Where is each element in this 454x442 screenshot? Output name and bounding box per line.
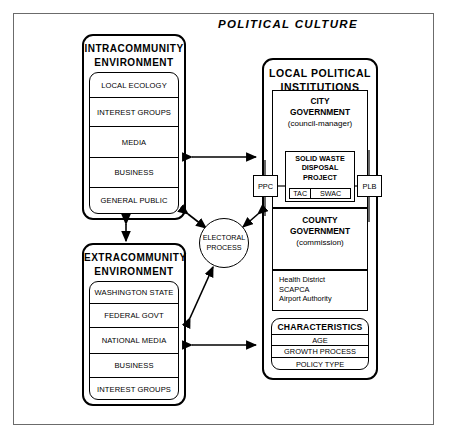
intracommunity-items: LOCAL ECOLOGY INTEREST GROUPS MEDIA BUSI… [89,72,179,214]
agency-item: SCAPCA [279,285,367,295]
characteristics-row: GROWTH PROCESS [272,346,368,358]
local-political-title-line1: LOCAL POLITICAL [264,60,376,80]
list-item: NATIONAL MEDIA [90,328,178,354]
solid-waste-line2: DISPOSAL [286,164,354,173]
plb-label: PLB [363,182,377,191]
characteristics-title: CHARACTERISTICS [272,319,368,335]
agency-item: Airport Authority [279,294,367,304]
county-government-box: COUNTY GOVERNMENT (commission) [272,208,368,270]
intracommunity-title-line1: INTRACOMMUNITY [84,36,184,55]
electoral-line2: PROCESS [206,243,241,253]
extracommunity-title-line2: ENVIRONMENT [84,264,184,278]
extracommunity-title-line1: EXTRACOMMUNITY [84,245,184,264]
extracommunity-items: WASHINGTON STATE FEDERAL GOVT NATIONAL M… [89,281,179,400]
plb-tag: PLB [357,175,382,197]
county-government-head-line1: COUNTY [273,209,367,226]
list-item: MEDIA [90,127,178,158]
tac-cell: TAC [290,189,311,198]
city-government-head-line1: CITY [273,91,367,107]
list-item: GENERAL PUBLIC [90,188,178,213]
county-agencies-box: Health District SCAPCA Airport Authority [272,270,368,311]
list-item: WASHINGTON STATE [90,282,178,304]
county-government-subtitle: (commission) [273,237,367,248]
list-item: INTEREST GROUPS [90,378,178,400]
city-government-head-line2: GOVERNMENT [273,107,367,118]
solid-waste-line1: SOLID WASTE [286,152,354,164]
ppc-tag: PPC [253,175,278,197]
list-item: BUSINESS [90,158,178,188]
characteristics-row: POLICY TYPE [272,358,368,370]
intracommunity-title-line2: ENVIRONMENT [84,55,184,69]
characteristics-row: AGE [272,335,368,346]
ppc-label: PPC [258,182,273,191]
electoral-process-circle: ELECTORAL PROCESS [199,218,249,268]
diagram-canvas: POLITICAL CULTURE INTRACOMMUNITY ENVIRON… [0,0,454,442]
county-government-head-line2: GOVERNMENT [273,226,367,237]
city-government-subtitle: (council-manager) [273,118,367,129]
political-culture-title: POLITICAL CULTURE [218,18,358,30]
electoral-line1: ELECTORAL [203,233,246,243]
solid-waste-line3: PROJECT [286,172,354,183]
agency-item: Health District [279,275,367,285]
list-item: BUSINESS [90,354,178,378]
solid-waste-committees: TAC SWAC [289,188,351,199]
swac-cell: SWAC [311,189,350,198]
list-item: FEDERAL GOVT [90,304,178,328]
characteristics-box: CHARACTERISTICS AGE GROWTH PROCESS POLIC… [271,318,369,370]
list-item: LOCAL ECOLOGY [90,73,178,98]
list-item: INTEREST GROUPS [90,98,178,127]
